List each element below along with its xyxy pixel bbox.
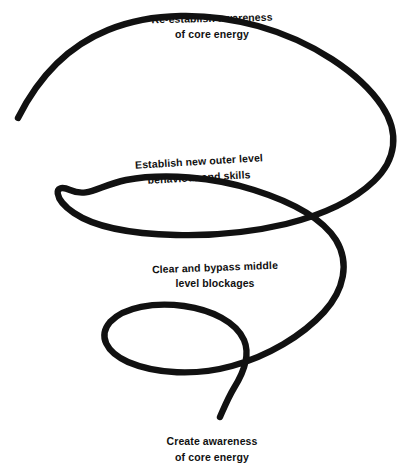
- spiral-curve-graphic: [0, 0, 414, 476]
- label-re-establish-awareness: Re-establish awareness of core energy: [122, 12, 302, 41]
- label-re-establish-awareness-line2: of core energy: [122, 28, 302, 41]
- label-clear-and-bypass-middle-line2: level blockages: [130, 277, 300, 290]
- spiral-path: [18, 16, 393, 417]
- label-create-awareness-line1: Create awareness: [152, 435, 272, 448]
- label-create-awareness: Create awareness of core energy: [152, 435, 272, 464]
- label-re-establish-awareness-line1: Re-establish awareness: [122, 10, 302, 27]
- label-clear-and-bypass-middle-line1: Clear and bypass middle: [130, 258, 300, 277]
- label-create-awareness-line2: of core energy: [152, 451, 272, 464]
- label-clear-and-bypass-middle: Clear and bypass middle level blockages: [130, 261, 300, 290]
- label-establish-new-outer-level: Establish new outer level behaviour and …: [104, 155, 294, 184]
- diagram-canvas: Re-establish awareness of core energy Es…: [0, 0, 414, 476]
